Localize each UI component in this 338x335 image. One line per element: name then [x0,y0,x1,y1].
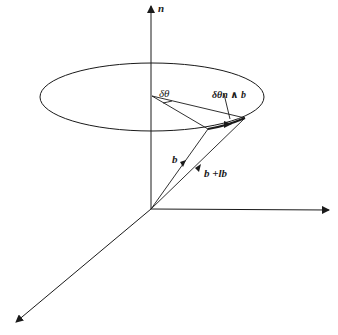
radius-to-b [152,96,208,129]
n-axis-label: n [158,3,164,14]
vector-b-plus-db [151,118,245,209]
vector-b-arrowhead [180,160,186,167]
delta-theta-arc [163,101,172,103]
displacement-label: δθn ∧ b [212,90,246,100]
diagram-canvas: n δθ δθn ∧ b b b +lb [0,0,338,335]
diagram-graphic [0,0,338,335]
delta-theta-label: δθ [159,88,170,99]
x-axis [151,209,329,210]
y-axis [16,209,151,322]
vector-b-plus-db-label: b +lb [204,168,227,179]
vector-b-label: b [172,154,178,165]
